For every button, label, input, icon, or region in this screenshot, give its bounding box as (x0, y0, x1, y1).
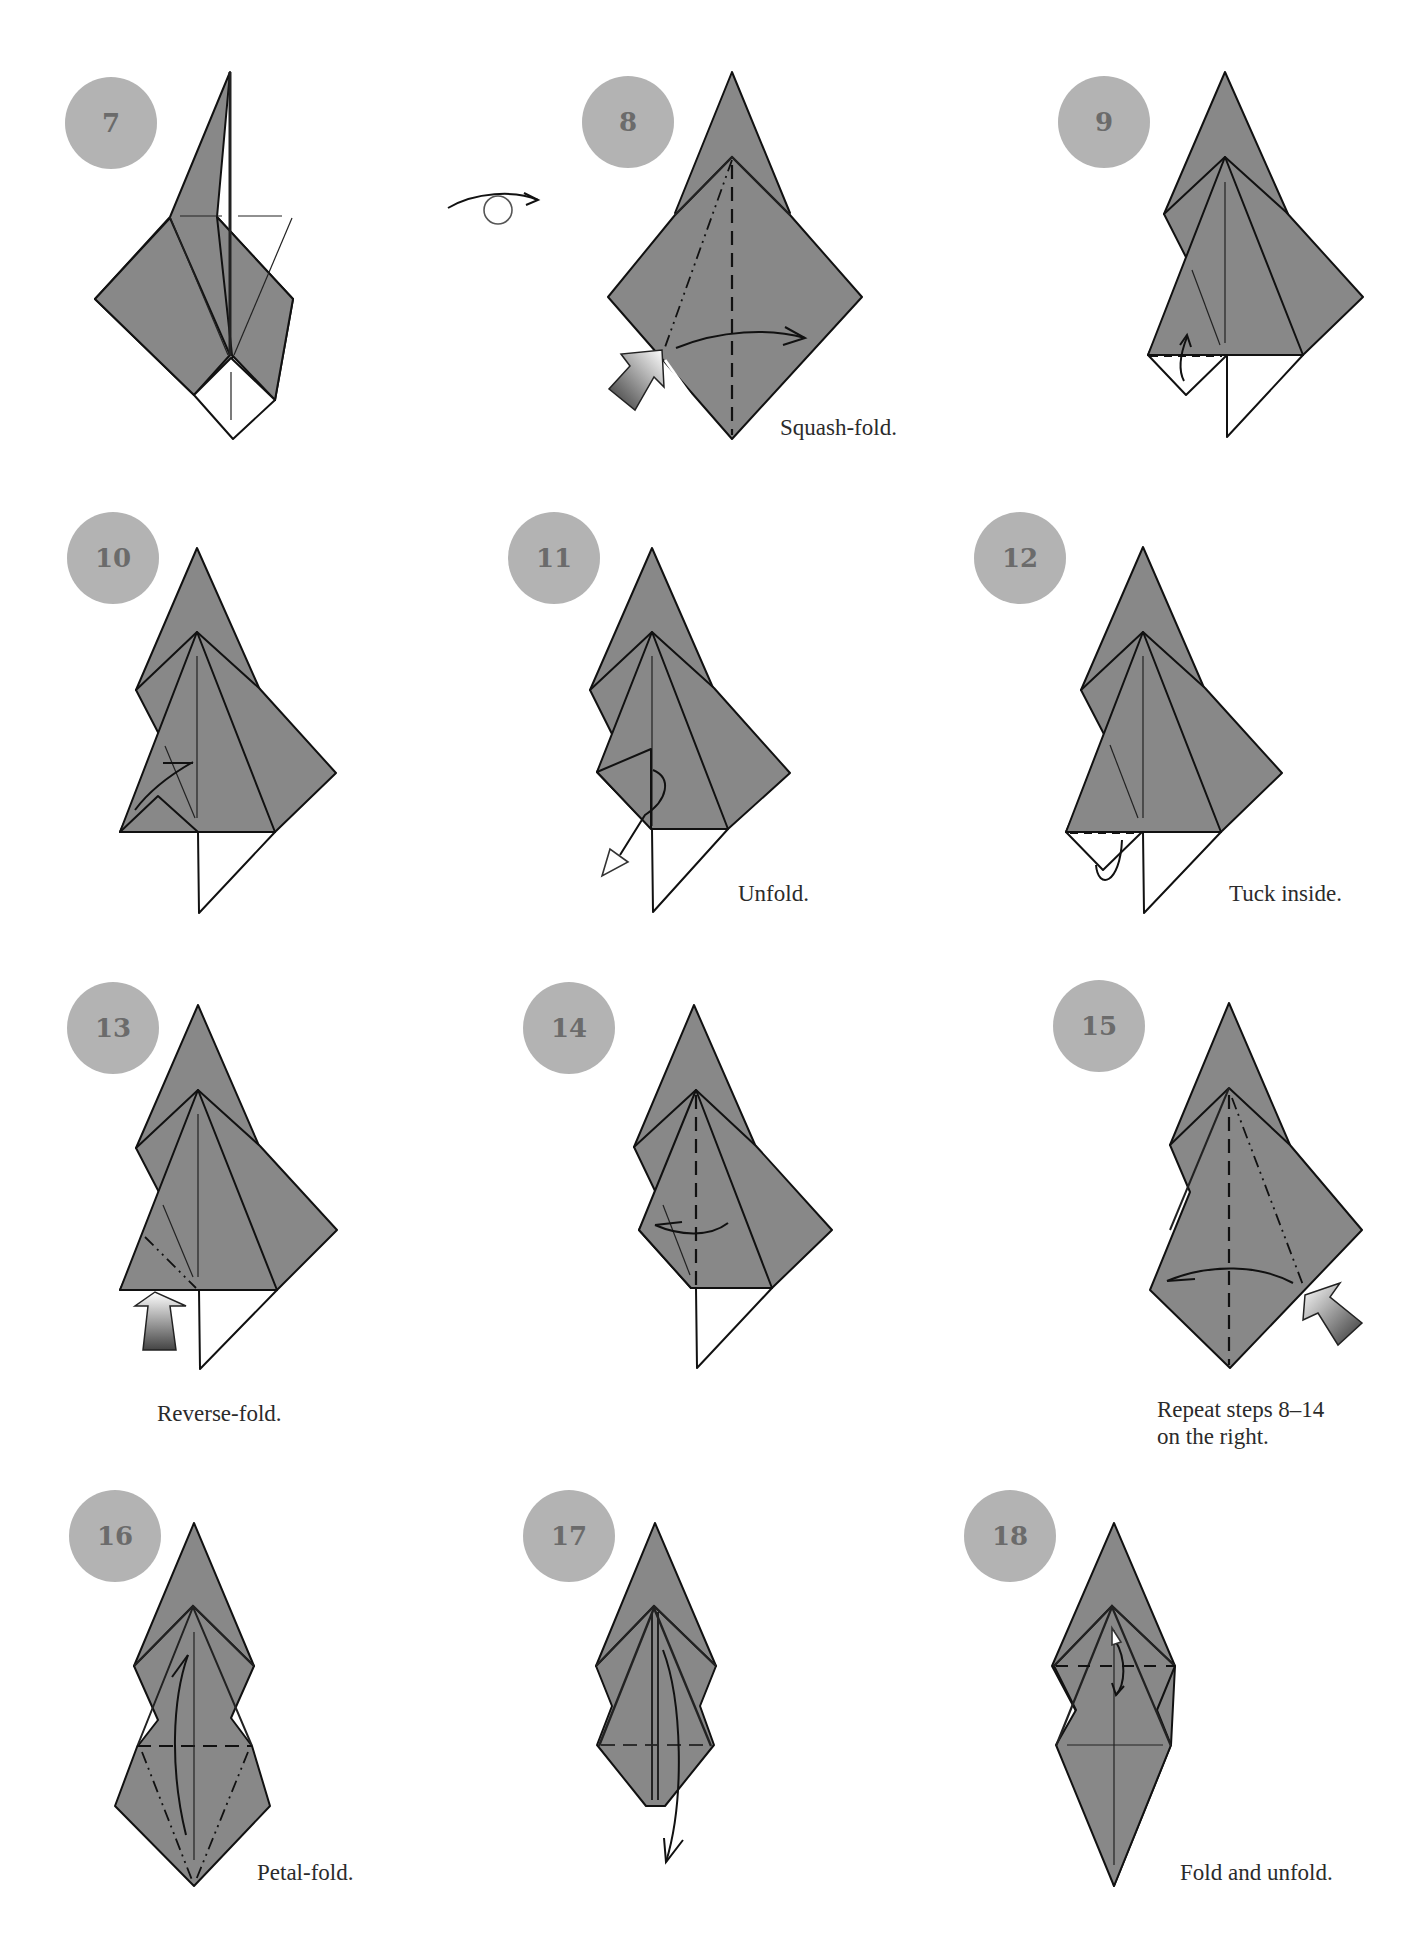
origami-diagram-step-18 (0, 0, 1422, 1941)
step-caption: Fold and unfold. (1180, 1859, 1333, 1886)
